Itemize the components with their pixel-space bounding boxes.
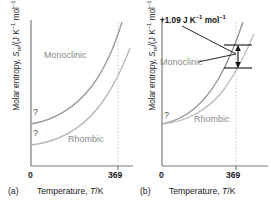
y-axis-label: Molar entropy, Sm/(J K–1 mol–1) — [146, 0, 158, 126]
panel-a: Molar entropy, Sm/(J K–1 mol–1) Monoclin… — [0, 0, 135, 203]
curve-rhombic — [162, 34, 254, 124]
curve-rhombic — [31, 48, 130, 145]
panel-letter-b: (b) — [140, 186, 151, 196]
curve-label-monoclinic: Monoclinic — [44, 50, 87, 60]
curve-monoclinic — [162, 22, 243, 124]
unknown-marker-rhombic: ? — [33, 128, 38, 138]
entropy-difference-annotation: +1.09 J K–1 mol–1 — [160, 14, 226, 25]
x-axis-label: Temperature, T/K — [37, 186, 103, 196]
curve-label-rhombic: Rhombic — [68, 134, 104, 144]
annotation-leader-line-2 — [198, 54, 236, 62]
x-tick-label-0: 0 — [159, 170, 164, 180]
annotation-leader-line-1 — [182, 26, 236, 54]
panel-b: Molar entropy, Sm/(J K–1 mol–1) +1.09 J … — [136, 0, 271, 203]
curve-label-monoclinic: Monoclinic — [160, 57, 203, 67]
panel-letter-a: (a) — [8, 186, 19, 196]
x-tick-label-369: 369 — [108, 170, 122, 180]
unknown-marker-common-origin: ? — [164, 110, 169, 120]
x-axis-label: Temperature, T/K — [169, 186, 235, 196]
x-tick-label-0: 0 — [28, 170, 33, 180]
unknown-marker-monoclinic: ? — [33, 107, 38, 117]
curve-label-rhombic: Rhombic — [194, 114, 230, 124]
x-tick-label-369: 369 — [226, 170, 240, 180]
figure-container: Molar entropy, Sm/(J K–1 mol–1) Monoclin… — [0, 0, 271, 203]
y-axis-label: Molar entropy, Sm/(J K–1 mol–1) — [10, 0, 22, 126]
curve-monoclinic — [31, 22, 122, 124]
